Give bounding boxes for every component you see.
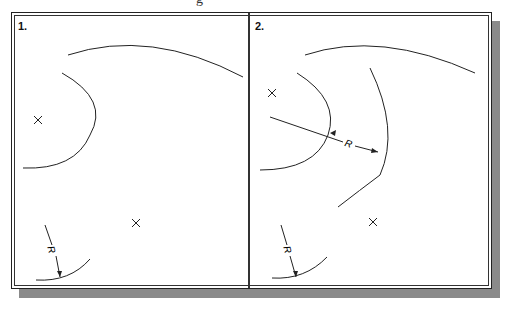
panel1-large-arc xyxy=(68,45,243,77)
panel2-dim-line-c xyxy=(281,225,287,245)
panel1-small-arc xyxy=(23,73,96,168)
panel2-small-arc xyxy=(260,73,331,170)
diagram-drawing xyxy=(0,0,506,309)
panel2-dim-line-a xyxy=(270,117,343,142)
panel2-center-mark xyxy=(268,89,276,97)
panel2-arrowhead-2 xyxy=(371,148,378,153)
panel2-center-mark-2 xyxy=(369,218,377,226)
panel1-center-mark-2 xyxy=(132,219,140,227)
panel2-arrowhead-1 xyxy=(330,130,336,136)
panel1-dim-line-a xyxy=(45,225,52,245)
panel1-radius-arc xyxy=(36,259,90,280)
panel1-center-mark xyxy=(34,116,42,124)
panel2-large-arc xyxy=(305,46,475,73)
panel2-radius-arc xyxy=(272,257,327,278)
